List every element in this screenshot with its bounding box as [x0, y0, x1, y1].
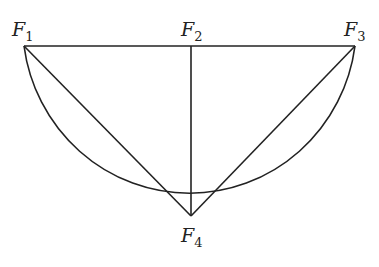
arc-f1-f4-f3 [24, 46, 355, 193]
label-f2: F2 [181, 20, 202, 43]
label-f1: F1 [12, 20, 33, 43]
edge-f1-f4 [24, 46, 191, 216]
label-f3: F3 [344, 20, 365, 43]
label-f4: F4 [181, 226, 202, 249]
edge-f3-f4 [191, 46, 355, 216]
